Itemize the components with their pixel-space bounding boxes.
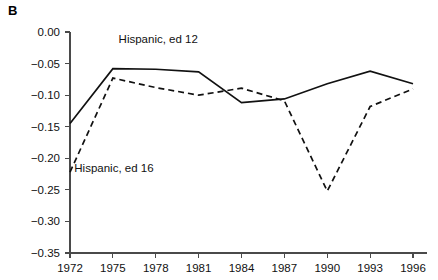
y-tick-label: −0.15 [31, 121, 60, 133]
y-tick-label: −0.30 [31, 215, 60, 227]
series-line-1 [70, 69, 413, 124]
x-tick-label: 1987 [272, 262, 298, 274]
line-chart: 0.00−0.05−0.10−0.15−0.20−0.25−0.30−0.35 … [0, 0, 438, 280]
y-tick-label: 0.00 [38, 26, 60, 38]
series-annotations: Hispanic, ed 12Hispanic, ed 16 [74, 33, 198, 173]
y-tick-label: −0.25 [31, 184, 60, 196]
y-tick-label: −0.20 [31, 152, 60, 164]
x-tick-label: 1978 [143, 262, 169, 274]
x-tick-label: 1975 [100, 262, 126, 274]
y-axis-ticks: 0.00−0.05−0.10−0.15−0.20−0.25−0.30−0.35 [31, 26, 70, 259]
figure-panel-b: B 0.00−0.05−0.10−0.15−0.20−0.25−0.30−0.3… [0, 0, 438, 280]
chart-axes [70, 32, 427, 253]
x-axis-ticks: 197219751978198119841987199019931996 [57, 253, 426, 274]
x-tick-label: 1981 [186, 262, 212, 274]
y-tick-label: −0.35 [31, 247, 60, 259]
x-tick-label: 1990 [314, 262, 340, 274]
x-tick-label: 1984 [229, 262, 255, 274]
x-tick-label: 1993 [357, 262, 383, 274]
y-tick-label: −0.05 [31, 58, 60, 70]
series-label-1: Hispanic, ed 12 [119, 33, 198, 45]
series-line-2 [70, 78, 413, 191]
y-tick-label: −0.10 [31, 89, 60, 101]
x-tick-label: 1972 [57, 262, 83, 274]
x-tick-label: 1996 [400, 262, 426, 274]
series-label-2: Hispanic, ed 16 [74, 162, 153, 174]
